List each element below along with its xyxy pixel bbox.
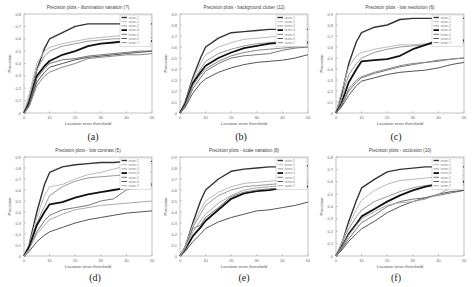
x-tick-label: 30 — [255, 115, 260, 120]
y-tick-label: 0.8 — [327, 155, 333, 160]
x-tick-label: 50 — [306, 115, 311, 120]
y-tick-label: 0 — [19, 254, 22, 259]
chart-panel-c: Precision plots - low resolution (6)00.1… — [314, 0, 471, 143]
y-tick-label: 0.2 — [15, 86, 21, 91]
y-tick-label: 0.8 — [15, 12, 21, 17]
y-tick-label: 0.2 — [171, 232, 177, 237]
y-tick-label: 0.6 — [15, 36, 21, 41]
chart-panel-e: Precision plots - scale variation (8)00.… — [158, 143, 315, 286]
x-tick-label: 20 — [73, 115, 78, 120]
y-tick-label: 0.7 — [171, 34, 177, 39]
y-tick-label: 0.2 — [171, 89, 177, 94]
y-tick-label: 0.9 — [171, 12, 177, 17]
x-tick-label: 50 — [150, 258, 155, 263]
x-tick-label: 40 — [436, 258, 441, 263]
x-tick-label: 30 — [411, 115, 416, 120]
x-tick-label: 50 — [306, 258, 311, 263]
y-tick-label: 0.3 — [171, 78, 177, 83]
x-tick-label: 50 — [150, 115, 155, 120]
chart-svg: Precision plots - scale variation (8)00.… — [158, 143, 315, 268]
y-tick-label: 0.4 — [15, 210, 21, 215]
x-tick-label: 20 — [229, 258, 234, 263]
chart-title: Precision plots - low resolution (6) — [366, 5, 435, 10]
x-tick-label: 20 — [385, 115, 390, 120]
caption-b: (b) — [226, 131, 256, 142]
x-tick-label: 40 — [280, 258, 285, 263]
y-axis-label: Precision — [163, 197, 168, 216]
y-tick-label: 0.5 — [327, 192, 333, 197]
caption-c: (c) — [381, 131, 411, 142]
y-tick-label: 0.9 — [15, 155, 21, 160]
legend-entry: series 7 — [285, 41, 296, 45]
y-tick-label: 0.4 — [15, 61, 21, 66]
y-tick-label: 0.8 — [15, 166, 21, 171]
x-tick-label: 30 — [411, 258, 416, 263]
chart-panel-a: Precision plots - illumination variation… — [2, 0, 159, 143]
x-tick-label: 40 — [124, 115, 129, 120]
x-tick-label: 0 — [23, 258, 26, 263]
y-tick-label: 0.5 — [171, 199, 177, 204]
y-tick-label: 0.3 — [171, 221, 177, 226]
x-tick-label: 10 — [47, 115, 52, 120]
y-tick-label: 0.3 — [15, 73, 21, 78]
y-tick-label: 0.5 — [15, 199, 21, 204]
x-tick-label: 0 — [335, 115, 338, 120]
chart-panel-d: Precision plots - low contrast (5)00.10.… — [2, 143, 159, 286]
x-axis-label: Location error threshold — [377, 264, 424, 268]
y-axis-label: Precision — [319, 54, 324, 73]
y-tick-label: 0.1 — [327, 100, 333, 105]
chart-title: Precision plots - illumination variation… — [47, 5, 130, 10]
x-tick-label: 20 — [385, 258, 390, 263]
legend-entry: series 7 — [285, 184, 296, 188]
y-tick-label: 0.3 — [327, 78, 333, 83]
chart-title: Precision plots - low contrast (5) — [55, 148, 121, 153]
y-tick-label: 0.4 — [171, 210, 177, 215]
y-tick-label: 0.6 — [171, 45, 177, 50]
y-tick-label: 0.8 — [171, 166, 177, 171]
x-tick-label: 10 — [203, 258, 208, 263]
x-tick-label: 0 — [179, 258, 182, 263]
y-tick-label: 0.1 — [15, 243, 21, 248]
y-tick-label: 0 — [331, 254, 334, 259]
caption-f: (f) — [381, 272, 411, 283]
y-tick-label: 0.8 — [171, 23, 177, 28]
y-tick-label: 0.6 — [327, 45, 333, 50]
y-tick-label: 0.1 — [327, 241, 333, 246]
y-tick-label: 0.9 — [171, 155, 177, 160]
legend-entry: series 7 — [441, 41, 452, 45]
y-tick-label: 0.1 — [171, 243, 177, 248]
x-axis-label: Location error threshold — [221, 264, 268, 268]
y-tick-label: 0.3 — [15, 221, 21, 226]
x-tick-label: 0 — [23, 115, 26, 120]
chart-panel-b: Precision plots - background clutter (12… — [158, 0, 315, 143]
x-tick-label: 30 — [99, 258, 104, 263]
x-tick-label: 20 — [229, 115, 234, 120]
y-tick-label: 0.2 — [15, 232, 21, 237]
chart-title: Precision plots - occlusion (10) — [369, 148, 432, 153]
legend-entry: series 7 — [129, 184, 140, 188]
y-tick-label: 0.9 — [327, 12, 333, 17]
x-tick-label: 0 — [335, 258, 338, 263]
chart-svg: Precision plots - background clutter (12… — [158, 0, 315, 125]
y-tick-label: 0.2 — [327, 89, 333, 94]
x-tick-label: 10 — [359, 258, 364, 263]
x-tick-label: 30 — [99, 115, 104, 120]
y-tick-label: 0.2 — [327, 229, 333, 234]
chart-svg: Precision plots - low resolution (6)00.1… — [314, 0, 471, 125]
y-tick-label: 0.5 — [15, 49, 21, 54]
chart-svg: Precision plots - low contrast (5)00.10.… — [2, 143, 159, 268]
x-tick-label: 40 — [436, 115, 441, 120]
y-tick-label: 0 — [175, 254, 178, 259]
caption-e: (e) — [229, 272, 259, 283]
y-tick-label: 0.7 — [15, 177, 21, 182]
y-tick-label: 0.7 — [327, 34, 333, 39]
y-tick-label: 0.3 — [327, 216, 333, 221]
y-tick-label: 0.1 — [171, 100, 177, 105]
y-axis-label: Precision — [7, 54, 12, 73]
y-tick-label: 0 — [19, 111, 22, 116]
y-tick-label: 0.6 — [171, 188, 177, 193]
y-tick-label: 0.4 — [327, 204, 333, 209]
x-axis-label: Location error threshold — [377, 121, 424, 125]
x-axis-label: Location error threshold — [65, 121, 112, 125]
y-tick-label: 0.5 — [327, 56, 333, 61]
